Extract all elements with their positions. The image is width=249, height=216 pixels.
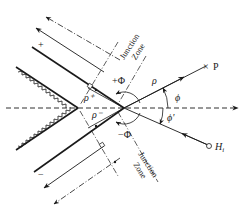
conducting-wedge [16, 67, 78, 150]
observation-point-marker: × [203, 61, 209, 72]
minus-face [34, 108, 124, 172]
plus-face-label: + [38, 39, 44, 50]
minus-face-dashed-ray [54, 158, 120, 204]
rho-plus-label: ρ⁺ [83, 92, 95, 103]
wedge-diffraction-diagram: × + − +Φ −Φ ρ ρ⁺ ρ⁻ ϕ ϕ' P Hi Junction Z… [0, 0, 249, 216]
rho-label: ρ [151, 75, 157, 86]
minus-face-ray [44, 146, 104, 188]
plus-face-ray [36, 28, 104, 72]
junction-zone-upper-label: Junction Zone [117, 31, 150, 67]
plus-face-dashed-ray [46, 17, 120, 60]
source-label: Hi [214, 141, 224, 154]
phi-prime-label: ϕ' [167, 112, 175, 123]
plus-phi-label: +Φ [112, 75, 125, 86]
source-marker [207, 144, 212, 149]
plus-face [32, 47, 124, 108]
junction-zone-lower-label: Junction Zone [128, 150, 161, 186]
rho-minus-label: ρ⁻ [91, 109, 103, 120]
minus-phi-label: −Φ [118, 129, 131, 140]
observation-point-label: P [213, 61, 219, 72]
phi-prime-arc [160, 108, 163, 124]
phi-label: ϕ [175, 92, 180, 103]
minus-face-label: − [38, 169, 44, 180]
phi-arc [163, 88, 168, 108]
